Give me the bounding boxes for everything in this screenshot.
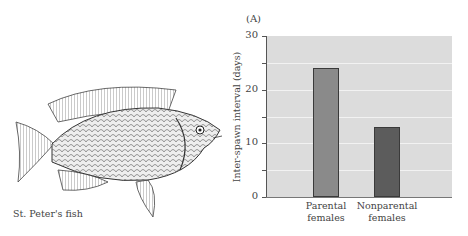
bar-nonparental xyxy=(374,127,400,197)
y-tick xyxy=(262,117,266,118)
gridline xyxy=(266,170,452,171)
gridline xyxy=(266,63,452,64)
y-tick xyxy=(262,36,266,37)
y-tick-label: 0 xyxy=(238,190,258,201)
gridline xyxy=(266,143,452,144)
x-axis xyxy=(266,197,452,198)
panel-label: (A) xyxy=(246,13,261,24)
bar-parental xyxy=(313,68,339,197)
st-peters-fish-illustration xyxy=(8,82,230,222)
y-tick xyxy=(262,90,266,91)
y-tick xyxy=(262,143,266,144)
y-tick-label: 30 xyxy=(238,29,258,40)
gridline xyxy=(266,117,452,118)
y-tick xyxy=(262,170,266,171)
x-category-label: Nonparentalfemales xyxy=(352,200,422,224)
gridline xyxy=(266,90,452,91)
y-tick-label: 10 xyxy=(238,136,258,147)
y-axis-label: Inter-spawn interval (days) xyxy=(231,52,242,183)
figure-caption: St. Peter's fish xyxy=(13,208,83,219)
y-tick xyxy=(262,63,266,64)
y-axis xyxy=(266,36,267,198)
x-category-label: Parentalfemales xyxy=(291,200,361,224)
plot-area xyxy=(266,36,452,197)
y-tick xyxy=(262,197,266,198)
y-tick-label: 20 xyxy=(238,83,258,94)
